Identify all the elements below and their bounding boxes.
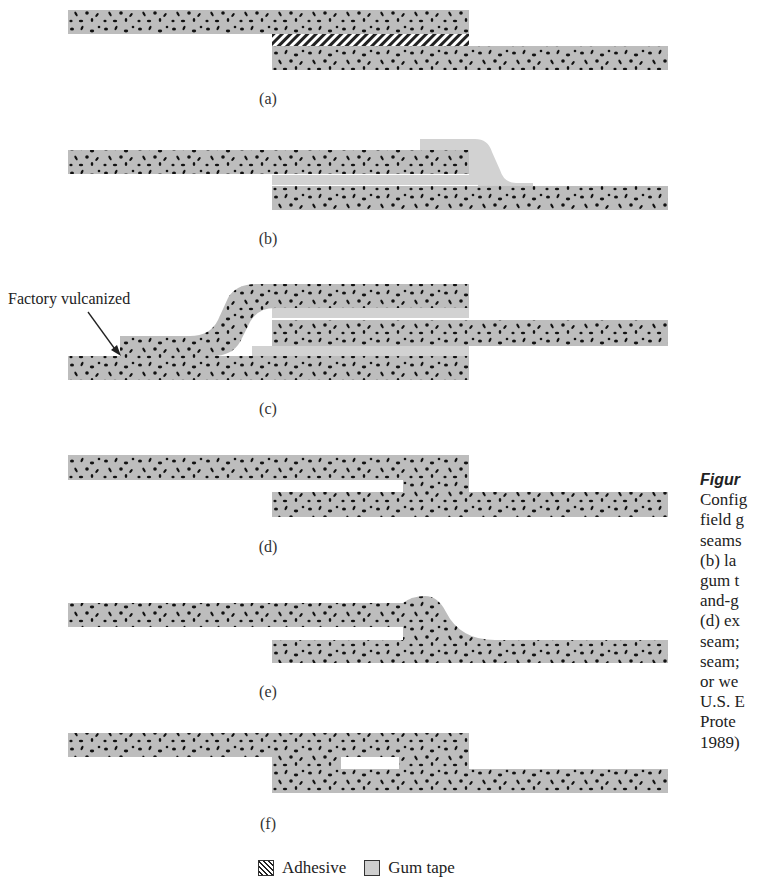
diagram-c-cover-strip (68, 284, 668, 380)
diagram-a-lap-adhesive (68, 10, 668, 70)
caption-line: 1989) (700, 733, 775, 753)
figure-caption: Figur Config field g seams (b) la gum t … (700, 470, 775, 753)
caption-line: Prote (700, 712, 775, 732)
caption-line: and-g (700, 591, 775, 611)
label-d: (d) (248, 538, 288, 556)
caption-line: seams (700, 531, 775, 551)
caption-title: Figur (700, 470, 775, 490)
legend: Adhesive Gum tape (258, 858, 455, 878)
caption-line: seam; (700, 652, 775, 672)
label-c: (c) (248, 400, 288, 418)
caption-line: or we (700, 672, 775, 692)
caption-line: gum t (700, 571, 775, 591)
caption-line: field g (700, 510, 775, 530)
seam-configuration-diagrams (0, 0, 775, 886)
label-b: (b) (248, 230, 288, 248)
adhesive-swatch-icon (258, 860, 274, 876)
legend-adhesive-label: Adhesive (282, 858, 346, 878)
factory-vulcanized-label: Factory vulcanized (8, 290, 130, 308)
label-f: (f) (248, 815, 288, 833)
diagram-f-fusion-weld (68, 733, 668, 793)
diagram-e-fillet-weld (68, 596, 668, 663)
diagram-b-lap-gum-tape (68, 139, 668, 210)
arrow-icon (88, 312, 121, 356)
caption-line: (d) ex (700, 611, 775, 631)
caption-line: U.S. E (700, 692, 775, 712)
label-a: (a) (248, 90, 288, 108)
gum-tape-swatch-icon (364, 860, 380, 876)
caption-line: Config (700, 490, 775, 510)
label-e: (e) (248, 683, 288, 701)
legend-gum-tape-label: Gum tape (388, 858, 455, 878)
caption-line: seam; (700, 632, 775, 652)
caption-line: (b) la (700, 551, 775, 571)
diagram-d-extrusion-weld (68, 455, 668, 517)
